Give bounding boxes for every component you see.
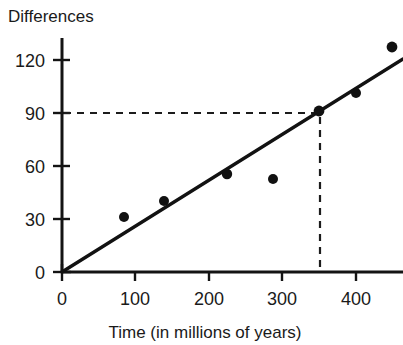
data-point [268, 174, 278, 184]
x-tick-label-400: 400 [341, 289, 371, 309]
x-tick-label-0: 0 [57, 289, 67, 309]
scatter-plot-canvas: Differences 0 30 60 90 120 [0, 0, 403, 345]
x-axis-tick-labels: 0 100 200 300 400 [57, 289, 371, 309]
y-tick-label-30: 30 [25, 210, 45, 230]
x-tick-label-100: 100 [120, 289, 150, 309]
data-point [159, 196, 169, 206]
x-axis-title: Time (in millions of years) [108, 323, 301, 342]
data-point [314, 106, 325, 117]
x-tick-label-300: 300 [267, 289, 297, 309]
data-point-series [119, 42, 397, 222]
data-point [119, 212, 129, 222]
y-tick-label-0: 0 [35, 263, 45, 283]
y-tick-label-60: 60 [25, 157, 45, 177]
x-tick-label-200: 200 [194, 289, 224, 309]
data-point [222, 169, 232, 179]
chart-figure: Differences 0 30 60 90 120 [0, 0, 403, 345]
data-point [387, 42, 398, 53]
y-axis-tick-labels: 0 30 60 90 120 [15, 51, 45, 283]
y-tick-label-120: 120 [15, 51, 45, 71]
y-axis-title: Differences [8, 7, 94, 26]
y-tick-label-90: 90 [25, 104, 45, 124]
data-point [351, 88, 361, 98]
